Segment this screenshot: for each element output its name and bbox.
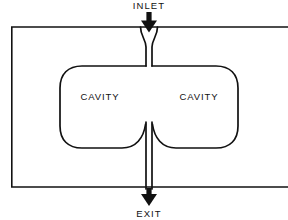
inlet-arrow	[141, 12, 157, 33]
flow-cavity-diagram: INLET EXIT CAVITY CAVITY	[0, 0, 288, 220]
diagram-canvas: INLET EXIT CAVITY CAVITY	[0, 0, 288, 220]
exit-label: EXIT	[136, 208, 162, 219]
exit-channel	[146, 122, 152, 189]
cavity-left-label: CAVITY	[80, 91, 119, 102]
inlet-label: INLET	[133, 0, 165, 11]
cavity-right-label: CAVITY	[179, 91, 218, 102]
outer-housing-outline	[11, 27, 288, 187]
cavity-right-outline	[152, 66, 238, 148]
cavity-left-outline	[60, 66, 146, 148]
inlet-channel	[141, 27, 158, 66]
exit-arrow	[141, 188, 157, 206]
